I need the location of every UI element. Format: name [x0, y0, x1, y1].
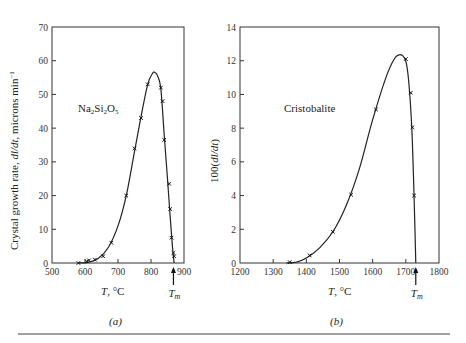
- y-tick-label: 6: [231, 157, 236, 167]
- panel-b-cristobalite: 02468101214 1200130014001500160017001800…: [208, 23, 449, 329]
- panel-a-y-ticks: 010203040506070: [39, 23, 57, 269]
- y-tick-label: 14: [227, 23, 237, 33]
- panel-b-compound-label: Cristobalite: [284, 102, 335, 114]
- x-tick-label: 1400: [297, 267, 316, 277]
- panel-b-caption: (b): [330, 315, 343, 328]
- panel-a-x-ticks: 500600700800900: [45, 259, 192, 277]
- panel-b-plot-frame: [240, 27, 439, 263]
- panel-b-x-axis-title: T, °C: [328, 285, 351, 297]
- y-tick-label: 70: [39, 23, 49, 33]
- panel-b-y-axis-title: 100(dl/dt): [208, 139, 221, 183]
- y-tick-label: 20: [39, 191, 49, 201]
- data-point-x-marker: [331, 230, 335, 234]
- x-tick-label: 500: [45, 267, 60, 277]
- y-tick-label: 10: [227, 90, 237, 100]
- y-tick-label: 4: [231, 191, 236, 201]
- melting-point-label: Tm: [411, 287, 423, 301]
- y-tick-label: 8: [231, 124, 236, 134]
- y-tick-label: 12: [227, 56, 237, 66]
- x-tick-label: 900: [177, 267, 192, 277]
- panel-a-caption: (a): [109, 315, 122, 328]
- y-tick-label: 30: [39, 157, 49, 167]
- x-tick-label: 600: [78, 267, 93, 277]
- panel-a-compound-label: Na2Si2O5: [78, 102, 119, 116]
- panel-a-y-axis-title: Crystal growth rate, dl/dt, microns min−…: [8, 71, 20, 250]
- panel-b-data-markers: [288, 57, 416, 264]
- panel-a-sodium-disilicate: 010203040506070 500600700800900 Na2Si2O5…: [8, 23, 191, 329]
- panel-b-y-ticks: 02468101214: [227, 23, 245, 269]
- y-tick-label: 10: [39, 225, 49, 235]
- y-tick-label: 60: [39, 56, 49, 66]
- x-tick-label: 1700: [396, 267, 415, 277]
- x-tick-label: 1500: [330, 267, 349, 277]
- melting-point-label: Tm: [168, 287, 180, 301]
- y-tick-label: 2: [231, 225, 236, 235]
- x-tick-label: 700: [111, 267, 126, 277]
- x-tick-label: 800: [144, 267, 159, 277]
- x-tick-label: 1200: [231, 267, 250, 277]
- x-tick-label: 1300: [264, 267, 283, 277]
- figure-canvas: 010203040506070 500600700800900 Na2Si2O5…: [0, 0, 466, 343]
- panel-b-growth-curve: [286, 55, 415, 263]
- panel-a-x-axis-title: T, °C: [101, 285, 124, 297]
- panel-a-growth-curve: [78, 72, 174, 263]
- y-tick-label: 50: [39, 90, 49, 100]
- y-tick-label: 40: [39, 124, 49, 134]
- x-tick-label: 1600: [363, 267, 382, 277]
- x-tick-label: 1800: [430, 267, 449, 277]
